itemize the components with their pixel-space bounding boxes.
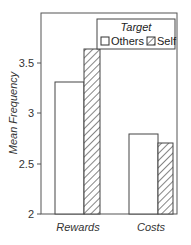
legend-label-others: Others bbox=[111, 35, 145, 47]
legend-title: Target bbox=[121, 21, 153, 33]
y-axis: 2 2.5 3 3.5 Mean Frequency bbox=[7, 57, 41, 220]
legend-label-self: Self bbox=[157, 35, 177, 47]
x-category-label: Rewards bbox=[56, 221, 100, 233]
legend-swatch-self bbox=[147, 37, 155, 45]
bar-chart: 2 2.5 3 3.5 Mean Frequency Rewards Costs… bbox=[0, 0, 191, 245]
legend-swatch-others bbox=[101, 37, 109, 45]
y-tick-label: 2.5 bbox=[19, 158, 34, 170]
bar-costs-self bbox=[158, 143, 173, 214]
y-tick-label: 3.5 bbox=[19, 57, 34, 69]
bar-rewards-self bbox=[84, 49, 100, 214]
x-category-label: Costs bbox=[137, 221, 166, 233]
legend: Target Others Self bbox=[97, 19, 177, 49]
bar-rewards-others bbox=[55, 82, 84, 214]
y-tick-label: 3 bbox=[28, 107, 34, 119]
y-tick-label: 2 bbox=[28, 208, 34, 220]
bars bbox=[55, 49, 173, 214]
bar-costs-others bbox=[129, 134, 158, 214]
y-axis-title: Mean Frequency bbox=[7, 70, 19, 154]
